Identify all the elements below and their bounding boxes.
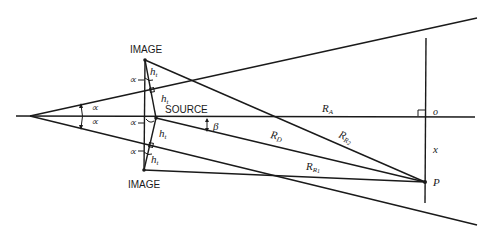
lower-wedge-line: [30, 116, 477, 225]
label-beta: β: [212, 120, 219, 132]
label-source: SOURCE: [165, 104, 208, 115]
label-h-t-lower-1: ht: [159, 127, 168, 141]
label-h-t-upper-2: ht: [161, 92, 170, 106]
image-vertical-line: [144, 60, 145, 170]
ray-r-r2: [145, 60, 425, 182]
vertical-receiver-line: [425, 38, 426, 203]
label-h-t-upper-1: ht: [150, 65, 159, 79]
label-origin-o: o: [433, 106, 438, 117]
point-p: [423, 180, 427, 184]
label-h-t-lower-2: ht: [151, 153, 160, 167]
label-alpha-upper-image: ∝: [129, 74, 137, 85]
horizontal-axis: [16, 116, 475, 117]
label-alpha-lower-wedge: ∝: [91, 116, 99, 127]
label-alpha-lower-image: ∝: [129, 146, 137, 157]
label-alpha-source: ∝: [129, 117, 137, 128]
right-angle-marker-o: [418, 110, 425, 116]
label-point-p: P: [432, 176, 440, 188]
label-image-top: IMAGE: [130, 44, 163, 55]
label-alpha-upper-wedge: ∝: [91, 102, 99, 113]
beta-arrow-up: [205, 118, 209, 122]
alpha-arc-source: [146, 119, 154, 122]
wedge-ray-diagram: IMAGE IMAGE SOURCE ∝ ∝ ∝ ∝ ∝ ht ht ht ht…: [0, 0, 489, 238]
lower-image-point: [142, 168, 146, 172]
upper-image-point: [143, 58, 147, 62]
label-image-bottom: IMAGE: [128, 179, 161, 190]
label-r-r1: RR1: [305, 160, 320, 174]
label-x-distance: x: [432, 143, 438, 155]
source-point: [154, 116, 158, 120]
right-angle-marker-upper: [150, 88, 155, 93]
label-r-d: RD: [268, 128, 283, 144]
label-r-a: RA: [321, 102, 334, 116]
